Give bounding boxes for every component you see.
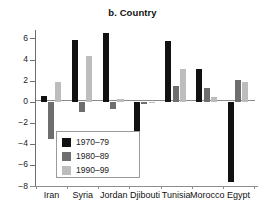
bar [48, 102, 54, 139]
y-axis-tick-label: −8 [2, 182, 28, 191]
bar [173, 86, 179, 102]
bar [55, 82, 61, 102]
chart-container: b. Country 6420−2−4−6−8 IranSyriaJordanD… [0, 0, 265, 211]
bar [86, 56, 92, 102]
bar [204, 88, 210, 102]
legend-swatch-1970-79 [62, 138, 71, 147]
legend: 1970–79 1980–89 1990–99 [56, 131, 140, 178]
bar [196, 69, 202, 102]
bar [165, 41, 171, 102]
bar [228, 102, 234, 182]
x-axis-tick [192, 186, 193, 189]
y-axis-line [35, 30, 36, 186]
legend-label-1980-89: 1980–89 [76, 152, 109, 161]
bar [211, 97, 217, 101]
legend-item-2: 1990–99 [62, 164, 109, 177]
x-axis-label-egypt: Egypt [217, 191, 260, 201]
y-axis-tick-label: 6 [2, 34, 28, 43]
x-axis-tick [36, 186, 37, 189]
y-axis-tick-label: −2 [2, 118, 28, 127]
x-axis-tick [98, 186, 99, 189]
x-axis-tick [129, 186, 130, 189]
x-axis-tick [67, 186, 68, 189]
bar [103, 33, 109, 102]
bar [117, 99, 123, 102]
x-axis-tick [254, 186, 255, 189]
bar [110, 102, 116, 109]
y-axis-tick-label: 0 [2, 97, 28, 106]
bar [72, 40, 78, 102]
bar [149, 102, 155, 104]
bar [141, 102, 147, 105]
y-axis-tick-label: −4 [2, 139, 28, 148]
bar [242, 82, 248, 102]
bar [180, 69, 186, 102]
legend-label-1990-99: 1990–99 [76, 166, 109, 175]
legend-swatch-1990-99 [62, 166, 71, 175]
bar [235, 80, 241, 102]
legend-item-1: 1980–89 [62, 150, 109, 163]
zero-baseline [36, 100, 255, 101]
legend-swatch-1980-89 [62, 152, 71, 161]
legend-item-0: 1970–79 [62, 136, 109, 149]
x-axis-tick [161, 186, 162, 189]
bar [41, 96, 47, 101]
y-axis-labels: 6420−2−4−6−8 [0, 0, 265, 211]
bar [79, 102, 85, 113]
legend-label-1970-79: 1970–79 [76, 138, 109, 147]
x-axis-tick [223, 186, 224, 189]
y-axis-tick-label: 2 [2, 76, 28, 85]
y-axis-tick-label: −6 [2, 160, 28, 169]
y-axis-tick-label: 4 [2, 55, 28, 64]
